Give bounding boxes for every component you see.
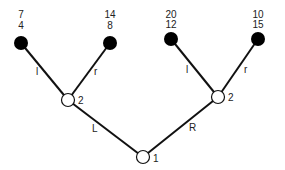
payoff-2-top: 14 (104, 9, 116, 20)
payoff-1-bottom: 4 (18, 20, 24, 31)
edge-left-l (21, 43, 68, 100)
terminal-node-4 (251, 32, 265, 46)
edge-label-L: L (92, 123, 98, 134)
decision-node-right (212, 91, 225, 104)
game-tree-diagram: 2 2 1 L R l r l r 7 4 14 8 20 12 10 15 (0, 0, 285, 170)
payoff-3-bottom: 12 (165, 19, 177, 30)
edge-right-r (218, 39, 258, 97)
edge-label-R: R (189, 122, 196, 133)
edge-left-r (68, 43, 110, 100)
decision-node-left (62, 94, 75, 107)
terminal-node-1 (14, 36, 28, 50)
payoff-2-bottom: 8 (107, 20, 113, 31)
edge-label-right-r: r (244, 64, 248, 75)
edge-L (68, 100, 143, 157)
edge-R (143, 97, 218, 157)
edge-label-left-l: l (36, 66, 38, 77)
terminal-node-3 (164, 32, 178, 46)
player-label-right: 2 (228, 92, 234, 103)
terminal-node-2 (103, 36, 117, 50)
edge-right-l (171, 39, 218, 97)
player-label-root: 1 (153, 153, 159, 164)
payoff-4-bottom: 15 (252, 19, 264, 30)
edge-label-right-l: l (186, 64, 188, 75)
payoff-1-top: 7 (18, 9, 24, 20)
edge-label-left-r: r (94, 66, 98, 77)
decision-node-root (137, 151, 150, 164)
player-label-left: 2 (78, 95, 84, 106)
